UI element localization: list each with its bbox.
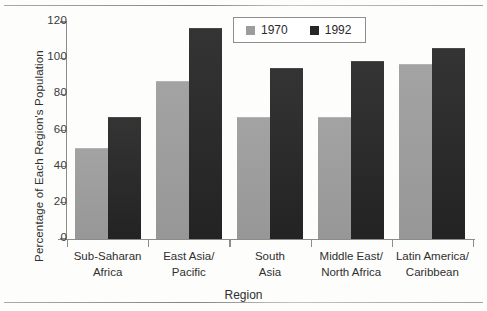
bar-1970-latin-america-caribbean[interactable]	[399, 64, 432, 239]
bar-group	[392, 22, 473, 239]
legend-item-1970: 1970	[246, 23, 288, 37]
legend-label-1970: 1970	[261, 23, 288, 37]
bar-1992-latin-america-caribbean[interactable]	[432, 48, 465, 239]
y-tick-label: 40	[39, 159, 67, 171]
chart-figure: Percentage of Each Region's Population 0…	[0, 0, 487, 311]
y-tick-label: 100	[39, 50, 67, 62]
bar-group	[148, 22, 229, 239]
plot-area	[67, 22, 473, 239]
x-tick	[473, 240, 474, 247]
x-tick	[392, 240, 393, 247]
bar-group	[229, 22, 310, 239]
bar-1970-south-asia[interactable]	[237, 117, 270, 239]
y-tick-label: 80	[39, 86, 67, 98]
x-axis-line	[58, 239, 475, 240]
legend-swatch-1992	[310, 26, 319, 35]
x-axis-title: Region	[0, 288, 487, 302]
bar-1970-east-asia-pacific[interactable]	[156, 81, 189, 239]
bar-1992-middle-east-north-africa[interactable]	[351, 61, 384, 239]
bar-1992-south-asia[interactable]	[270, 68, 303, 239]
legend-label-1992: 1992	[325, 23, 352, 37]
bar-1992-east-asia-pacific[interactable]	[189, 28, 222, 239]
chart-legend: 1970 1992	[233, 17, 366, 43]
bar-group	[67, 22, 148, 239]
x-tick	[311, 240, 312, 247]
y-axis-title: Percentage of Each Region's Population	[33, 31, 45, 281]
bar-group	[311, 22, 392, 239]
y-tick-label: 0	[39, 231, 67, 243]
page-rule-bottom	[4, 302, 483, 303]
x-tick	[148, 240, 149, 247]
bar-1970-middle-east-north-africa[interactable]	[318, 117, 351, 239]
legend-swatch-1970	[246, 26, 255, 35]
y-tick-label: 120	[39, 14, 67, 26]
category-label: Latin America/Caribbean	[380, 249, 485, 280]
bar-1992-sub-saharan-africa[interactable]	[108, 117, 141, 239]
x-axis-category-labels: Sub-SaharanAfricaEast Asia/PacificSouthA…	[67, 249, 473, 287]
x-tick	[67, 240, 68, 247]
x-tick	[229, 240, 230, 247]
bar-1970-sub-saharan-africa[interactable]	[75, 148, 108, 239]
page-rule-top	[4, 5, 483, 6]
y-tick-label: 20	[39, 195, 67, 207]
y-tick-label: 60	[39, 123, 67, 135]
legend-item-1992: 1992	[310, 23, 352, 37]
